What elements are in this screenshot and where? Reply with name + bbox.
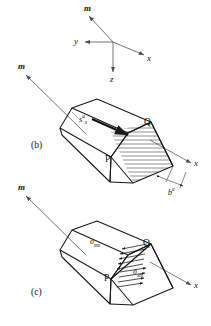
slip-vector-subscript: x	[85, 119, 87, 125]
axis-label-x: x	[147, 54, 151, 63]
stress-upper-subscript: mx	[94, 242, 100, 248]
panel-c-prism	[60, 221, 173, 305]
panel-c-caption: (c)	[31, 288, 42, 298]
axis-label-y: y	[74, 37, 78, 46]
panel-c-stress-upper-label: σmx	[90, 238, 100, 248]
axis-label-m: m	[84, 4, 91, 13]
panel-c-point-p: P	[104, 274, 109, 284]
figure-root: m y x z m (b) sax P Q x ba m (c) σmx σxm…	[0, 0, 211, 326]
panel-c-m-arrow	[26, 196, 86, 255]
panel-b-slip-vector-label: sax	[79, 114, 87, 125]
panel-b-thickness-label: ba	[168, 187, 175, 197]
panel-b-caption: (b)	[31, 141, 42, 151]
panel-c-x-label: x	[194, 281, 198, 290]
coordinate-axes-group	[85, 16, 144, 72]
panel-b-m-arrow	[26, 75, 86, 134]
panel-c-interface-line	[111, 244, 151, 279]
axis-label-z: z	[110, 75, 114, 84]
panel-c-stress-lower-label: σxm	[133, 268, 143, 278]
axis-arrow-x	[113, 42, 144, 55]
panel-c-m-label: m	[18, 183, 25, 192]
panel-b-prism	[60, 99, 173, 183]
panel-b-m-label: m	[18, 62, 25, 71]
stress-lower-subscript: xm	[137, 272, 143, 278]
panel-b-point-p: P	[105, 155, 110, 165]
panel-b-slip-label-leader	[72, 112, 78, 118]
panel-b-displacement-arrow	[92, 119, 128, 135]
thickness-superscript: a	[172, 186, 175, 192]
axis-arrow-m	[89, 16, 113, 42]
panel-c-point-q: Q	[143, 239, 150, 249]
panel-b-group	[26, 75, 191, 188]
panel-b-hatched-face	[105, 124, 180, 180]
panel-c-group	[26, 196, 191, 305]
panel-c-x-arrow	[150, 262, 191, 285]
panel-b-x-label: x	[194, 159, 198, 168]
panel-b-point-q: Q	[144, 118, 151, 128]
panel-b-x-arrow	[150, 140, 191, 163]
